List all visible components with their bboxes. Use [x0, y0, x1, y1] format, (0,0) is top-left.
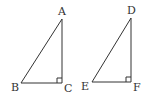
right-angle-marker-c — [57, 78, 62, 83]
vertex-label-c: C — [64, 82, 72, 95]
vertex-label-e: E — [81, 80, 89, 93]
right-angle-marker-f — [126, 77, 131, 82]
vertex-label-d: D — [127, 4, 136, 17]
vertex-label-b: B — [11, 81, 19, 94]
triangle-def-outline — [92, 18, 131, 82]
vertex-label-a: A — [57, 5, 67, 18]
vertex-label-f: F — [133, 81, 141, 94]
triangle-def: D E F — [81, 4, 141, 94]
triangle-abc: A B C — [11, 5, 72, 95]
triangle-abc-outline — [21, 19, 62, 83]
diagram-canvas: A B C D E F — [0, 0, 153, 97]
